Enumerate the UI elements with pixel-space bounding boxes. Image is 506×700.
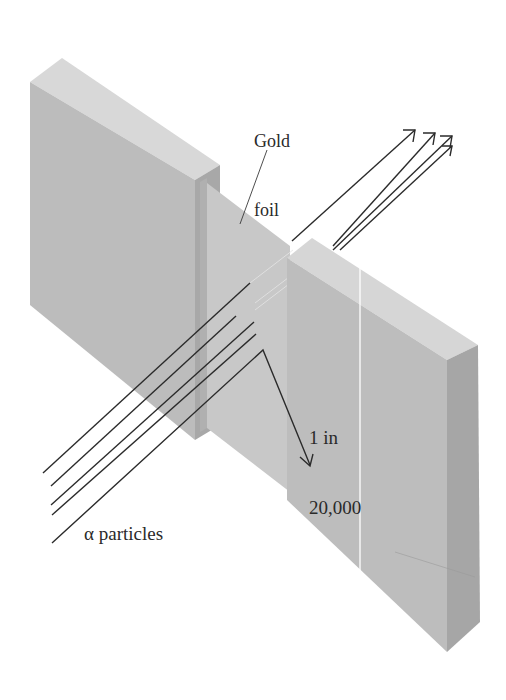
gold-foil-label: Gold foil — [254, 86, 290, 243]
ratio-label: 1 in 20,000 — [309, 383, 361, 541]
gold-foil-label-line1: Gold — [254, 130, 290, 152]
alpha-particles-label: α particles — [84, 523, 163, 545]
gold-foil-diagram — [0, 0, 506, 700]
transmitted-arrows — [292, 130, 452, 250]
ratio-label-line1: 1 in — [309, 427, 361, 449]
right-block-side-face — [447, 345, 480, 652]
gold-foil-edge — [200, 178, 207, 432]
ratio-label-line2: 20,000 — [309, 497, 361, 519]
left-block — [30, 58, 220, 440]
gold-foil-label-line2: foil — [254, 199, 290, 221]
